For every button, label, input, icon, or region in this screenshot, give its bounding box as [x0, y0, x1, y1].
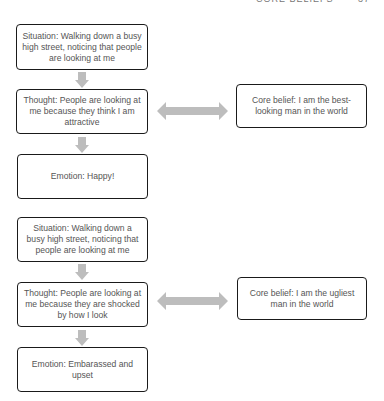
emotion-text: Emotion: Embarassed and upset	[23, 359, 142, 381]
situation-box: Situation: Walking down a busy high stre…	[17, 217, 148, 262]
down-arrow-icon	[75, 72, 89, 88]
emotion-text: Emotion: Happy!	[51, 171, 115, 182]
down-arrow-icon	[75, 264, 89, 280]
thought-box: Thought: People are looking at me becaus…	[17, 282, 148, 327]
emotion-box: Emotion: Embarassed and upset	[17, 347, 148, 392]
running-head: CORE BELIEFS 37	[256, 0, 334, 4]
down-arrow-icon	[75, 330, 89, 346]
situation-text: Situation: Walking down a busy high stre…	[22, 31, 142, 64]
emotion-box: Emotion: Happy!	[17, 154, 148, 199]
core-belief-text: Core belief: I am the best-looking man i…	[242, 95, 361, 117]
page-number: 37	[358, 0, 370, 4]
core-belief-text: Core belief: I am the ugliest man in the…	[243, 288, 361, 310]
situation-text: Situation: Walking down a busy high stre…	[23, 223, 142, 256]
double-arrow-icon	[157, 102, 228, 120]
thought-text: Thought: People are looking at me becaus…	[23, 288, 142, 321]
running-head-title: CORE BELIEFS	[256, 0, 334, 4]
double-arrow-icon	[157, 292, 228, 310]
down-arrow-icon	[75, 137, 89, 153]
thought-box: Thought: People are looking at me becaus…	[16, 89, 148, 134]
thought-text: Thought: People are looking at me becaus…	[22, 95, 142, 128]
situation-box: Situation: Walking down a busy high stre…	[16, 24, 148, 70]
core-belief-box: Core belief: I am the best-looking man i…	[236, 84, 367, 128]
core-belief-box: Core belief: I am the ugliest man in the…	[237, 277, 367, 320]
